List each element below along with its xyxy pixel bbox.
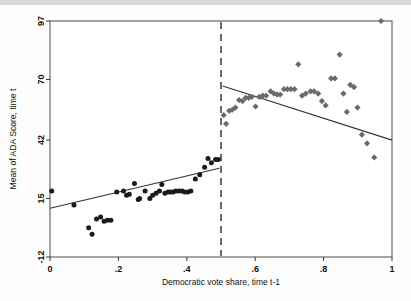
y-tick-label: 70 [36,74,46,84]
chart-svg: -12154270970.2.4.6.81Democratic vote sha… [0,0,411,301]
x-tick-label: 1 [389,264,394,274]
data-point-circle [127,192,132,197]
y-axis-label: Mean of ADA Score, time t [8,88,18,189]
data-point-circle [159,182,164,187]
chart-screenshot: -12154270970.2.4.6.81Democratic vote sha… [0,0,411,301]
data-point-circle [157,188,162,193]
x-tick-label: .2 [115,264,123,274]
data-point-circle [202,165,207,170]
data-point-circle [114,190,119,195]
data-point-circle [86,225,91,230]
x-tick-label: .6 [251,264,259,274]
x-tick-label: .8 [320,264,328,274]
data-point-circle [193,177,198,182]
data-point-circle [143,188,148,193]
data-point-circle [90,232,95,237]
data-point-circle [137,196,142,201]
rd-scatter-plot: -12154270970.2.4.6.81Democratic vote sha… [0,0,411,301]
y-tick-label: 42 [36,135,46,145]
x-tick-label: 0 [47,264,52,274]
data-point-circle [188,188,193,193]
data-point-circle [71,203,76,208]
data-point-circle [206,156,211,161]
data-point-circle [121,188,126,193]
y-tick-label: 15 [36,194,46,204]
data-point-circle [49,188,54,193]
data-point-circle [216,157,221,162]
data-point-circle [98,214,103,219]
data-point-circle [132,181,137,186]
x-tick-label: .4 [183,264,191,274]
data-point-circle [108,218,113,223]
data-point-circle [197,172,202,177]
data-point-circle [209,160,214,165]
x-axis-label: Democratic vote share, time t-1 [162,277,280,287]
y-tick-label: 97 [36,16,46,26]
y-tick-label: -12 [36,250,46,263]
